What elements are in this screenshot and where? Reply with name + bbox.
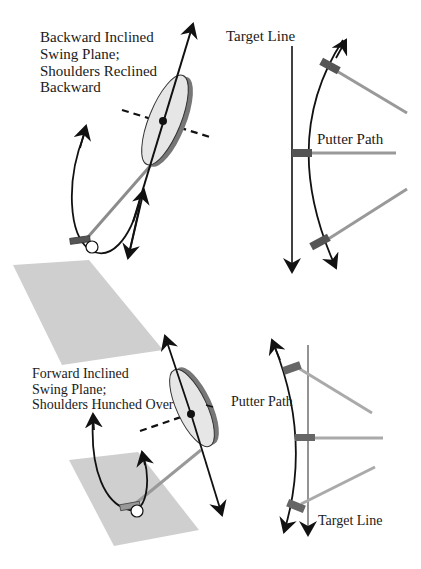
shaft-bottom (301, 467, 375, 504)
putter-head-mid (295, 434, 315, 441)
caption-line: Swing Plane; (32, 382, 174, 398)
caption-line: Forward Inclined (32, 366, 174, 382)
top-side-caption: Backward Inclined Swing Plane; Shoulders… (40, 29, 157, 96)
top-target-line-label: Target Line (226, 28, 295, 45)
caption-line: Backward (40, 79, 157, 96)
backstroke-arrow (93, 414, 94, 430)
putter-head-top (319, 58, 340, 74)
shaft-top (335, 70, 407, 113)
top-putter-path-label: Putter Path (317, 131, 383, 148)
bottom-target-line-label: Target Line (318, 513, 382, 529)
caption-line: Swing Plane; (40, 46, 157, 63)
caption-line: Backward Inclined (40, 29, 157, 46)
shaft-bottom (322, 189, 407, 243)
putter-shaft (88, 157, 158, 237)
golf-ball (86, 241, 98, 253)
bottom-putter-path-label: Putter Path (231, 394, 293, 410)
bottom-overhead-view (272, 340, 383, 535)
golf-ball (131, 505, 143, 517)
putter-path-arrow-top (272, 340, 280, 360)
double-arrow-down (128, 205, 140, 258)
putter-head-mid (292, 149, 312, 157)
backstroke-arrow (80, 126, 86, 148)
top-overhead-view (292, 40, 407, 272)
bottom-side-caption: Forward Inclined Swing Plane; Shoulders … (32, 366, 174, 413)
shaft-top (295, 366, 372, 413)
stroke-arc (72, 135, 140, 253)
ground-mat (13, 260, 163, 365)
caption-line: Shoulders Hunched Over (32, 397, 174, 413)
putter-head-top (282, 361, 302, 375)
caption-line: Shoulders Reclined (40, 63, 157, 80)
